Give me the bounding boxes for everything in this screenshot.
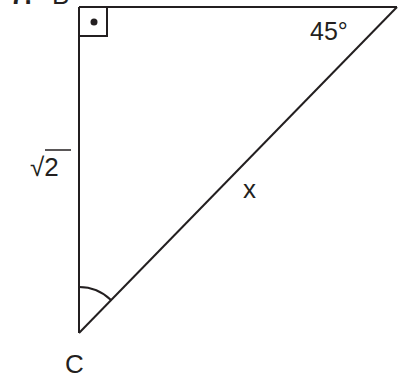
vertex-b-label: B [52, 0, 69, 10]
hypotenuse [79, 7, 397, 333]
angle-arc-c [79, 287, 111, 300]
side-sqrt2-label: √2 [30, 152, 59, 182]
triangle-diagram: 7. B 45° √2 x C [0, 0, 399, 388]
angle-45-label: 45° [310, 17, 348, 45]
problem-number: 7. [10, 0, 32, 10]
right-angle-dot [91, 19, 98, 26]
vertex-c-label: C [65, 349, 84, 379]
hypotenuse-x-label: x [243, 174, 256, 204]
